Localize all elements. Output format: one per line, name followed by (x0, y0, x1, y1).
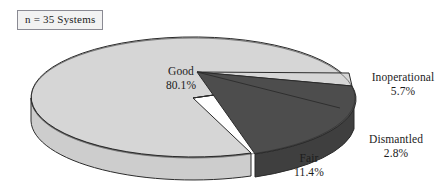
slice-label-dismantled-pct: 2.8% (357, 147, 435, 161)
slice-label-dismantled: Dismantled 2.8% (357, 133, 435, 160)
slice-label-good: Good 80.1% (155, 65, 207, 92)
slice-label-inoperational-name: Inoperational (362, 71, 444, 85)
slice-label-good-pct: 80.1% (155, 79, 207, 93)
pie-chart-figure: n = 35 Systems Good 80.1% Inoperational … (0, 0, 447, 187)
slice-label-dismantled-name: Dismantled (357, 133, 435, 147)
slice-label-inoperational: Inoperational 5.7% (362, 71, 444, 98)
slice-label-good-name: Good (155, 65, 207, 79)
slice-label-fair-pct: 11.4% (286, 166, 332, 180)
slice-label-fair-name: Fair (286, 152, 332, 166)
slice-label-fair: Fair 11.4% (286, 152, 332, 179)
slice-label-inoperational-pct: 5.7% (362, 85, 444, 99)
sample-size-annotation: n = 35 Systems (17, 10, 103, 30)
